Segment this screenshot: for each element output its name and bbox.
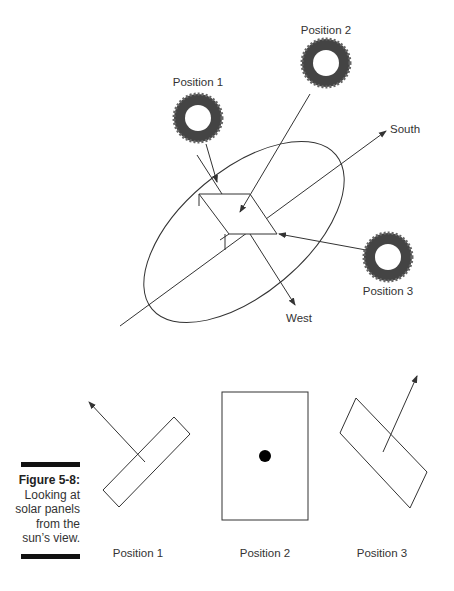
caption-line: Looking at xyxy=(14,488,80,503)
caption-bottom-bar xyxy=(21,554,80,559)
south-label: South xyxy=(390,123,420,135)
sun-label-position-1: Position 1 xyxy=(173,76,224,88)
west-label: West xyxy=(286,312,313,324)
west-axis xyxy=(250,234,295,305)
sun-icon xyxy=(364,233,412,281)
panel-view-position-3 xyxy=(340,398,427,508)
figure-caption: Figure 5-8: Looking at solar panels from… xyxy=(14,462,80,559)
caption-line: sun’s view. xyxy=(14,531,80,546)
sun-label-position-2: Position 2 xyxy=(301,24,352,36)
figure-number: Figure 5-8: xyxy=(14,473,80,488)
caption-line: from the xyxy=(14,517,80,532)
sun-label-position-3: Position 3 xyxy=(363,285,414,297)
caption-text: Looking at solar panels from the sun’s v… xyxy=(14,488,80,546)
caption-line: solar panels xyxy=(14,502,80,517)
ray-position-1 xyxy=(206,144,217,182)
caption-top-bar xyxy=(21,462,80,467)
view-label-position-3: Position 3 xyxy=(357,547,408,559)
ray-position-3 xyxy=(279,234,366,250)
solar-panel xyxy=(199,194,277,234)
sun-ray-dot xyxy=(259,450,271,462)
sun-icon xyxy=(174,94,222,142)
sun-icon xyxy=(302,39,350,87)
view-label-position-2: Position 2 xyxy=(240,547,291,559)
view-label-position-1: Position 1 xyxy=(113,547,164,559)
